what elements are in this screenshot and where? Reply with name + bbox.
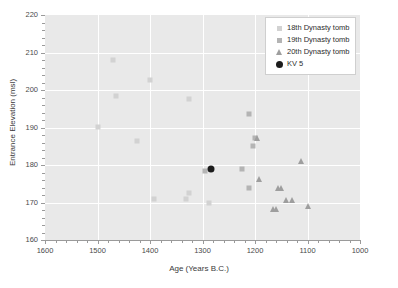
legend-label: 18th Dynasty tomb <box>287 22 350 34</box>
x-tick-minor <box>108 240 109 243</box>
legend-label: KV 5 <box>287 58 303 70</box>
x-tick-minor <box>234 240 235 243</box>
x-tick <box>360 240 361 244</box>
data-point-18th-dynasty <box>152 197 157 202</box>
legend-label: 20th Dynasty tomb <box>287 46 350 58</box>
x-tick-minor <box>213 240 214 243</box>
x-tick-label: 1600 <box>37 246 54 255</box>
x-tick <box>45 240 46 244</box>
triangle-marker-icon <box>271 49 287 55</box>
data-point-18th-dynasty <box>134 139 139 144</box>
data-point-18th-dynasty <box>95 124 100 129</box>
legend-label: 19th Dynasty tomb <box>287 34 350 46</box>
gridline-horizontal <box>45 203 360 204</box>
x-tick <box>150 240 151 244</box>
chart-legend: 18th Dynasty tomb 19th Dynasty tomb 20th… <box>265 17 356 75</box>
data-point-kv5 <box>207 166 214 173</box>
data-point-20th-dynasty <box>305 203 311 209</box>
x-tick-label: 1100 <box>299 246 315 255</box>
data-point-18th-dynasty <box>206 200 211 205</box>
gridline-horizontal <box>45 165 360 166</box>
y-axis-label: Entrance Elevation (msl) <box>8 43 17 203</box>
x-tick-minor <box>266 240 267 243</box>
x-tick-minor <box>56 240 57 243</box>
x-tick-minor <box>276 240 277 243</box>
x-tick-label: 1500 <box>89 246 106 255</box>
legend-item-kv5[interactable]: KV 5 <box>271 58 350 70</box>
data-point-18th-dynasty <box>113 94 118 99</box>
legend-item-18th-dynasty[interactable]: 18th Dynasty tomb <box>271 22 350 34</box>
data-point-19th-dynasty <box>247 185 252 190</box>
x-tick-minor <box>129 240 130 243</box>
x-tick-minor <box>350 240 351 243</box>
x-tick <box>308 240 309 244</box>
x-tick-minor <box>161 240 162 243</box>
data-point-18th-dynasty <box>111 58 116 63</box>
data-point-20th-dynasty <box>289 197 295 203</box>
data-point-18th-dynasty <box>187 191 192 196</box>
x-tick-label: 1300 <box>194 246 211 255</box>
x-axis-label: Age (Years B.C.) <box>0 264 398 273</box>
x-tick-label: 1200 <box>247 246 264 255</box>
y-tick-label: 170 <box>25 198 38 207</box>
data-point-20th-dynasty <box>254 135 260 141</box>
data-point-20th-dynasty <box>298 158 304 164</box>
data-point-19th-dynasty <box>251 143 256 148</box>
x-tick-minor <box>119 240 120 243</box>
x-tick <box>255 240 256 244</box>
gridline-horizontal <box>45 90 360 91</box>
x-tick-minor <box>87 240 88 243</box>
x-tick-minor <box>66 240 67 243</box>
square-marker-icon <box>271 26 287 31</box>
x-tick-minor <box>318 240 319 243</box>
square-marker-icon <box>271 38 287 43</box>
y-tick <box>41 240 45 241</box>
y-tick-label: 160 <box>25 235 38 244</box>
x-tick-minor <box>287 240 288 243</box>
x-tick-minor <box>245 240 246 243</box>
y-tick-label: 190 <box>25 123 38 132</box>
x-tick-minor <box>339 240 340 243</box>
data-point-20th-dynasty <box>273 206 279 212</box>
x-tick-label: 1400 <box>142 246 159 255</box>
gridline-horizontal <box>45 128 360 129</box>
circle-marker-icon <box>271 61 287 68</box>
x-tick-minor <box>77 240 78 243</box>
x-tick-minor <box>192 240 193 243</box>
y-tick-label: 180 <box>25 160 38 169</box>
x-tick-minor <box>329 240 330 243</box>
y-tick-label: 220 <box>25 10 38 19</box>
x-tick-minor <box>297 240 298 243</box>
x-tick <box>203 240 204 244</box>
data-point-20th-dynasty <box>278 185 284 191</box>
data-point-18th-dynasty <box>148 77 153 82</box>
y-tick-label: 200 <box>25 85 38 94</box>
data-point-20th-dynasty <box>256 176 262 182</box>
data-point-18th-dynasty <box>187 97 192 102</box>
legend-item-19th-dynasty[interactable]: 19th Dynasty tomb <box>271 34 350 46</box>
x-tick-minor <box>171 240 172 243</box>
data-point-18th-dynasty <box>183 197 188 202</box>
data-point-19th-dynasty <box>239 167 244 172</box>
scatter-chart-figure: Entrance Elevation (msl) Age (Years B.C.… <box>0 0 398 288</box>
y-tick-label: 210 <box>25 48 38 57</box>
x-tick-minor <box>140 240 141 243</box>
legend-item-20th-dynasty[interactable]: 20th Dynasty tomb <box>271 46 350 58</box>
x-tick-label: 1000 <box>352 246 369 255</box>
x-tick-minor <box>182 240 183 243</box>
data-point-19th-dynasty <box>246 112 251 117</box>
x-tick <box>98 240 99 244</box>
x-tick-minor <box>224 240 225 243</box>
